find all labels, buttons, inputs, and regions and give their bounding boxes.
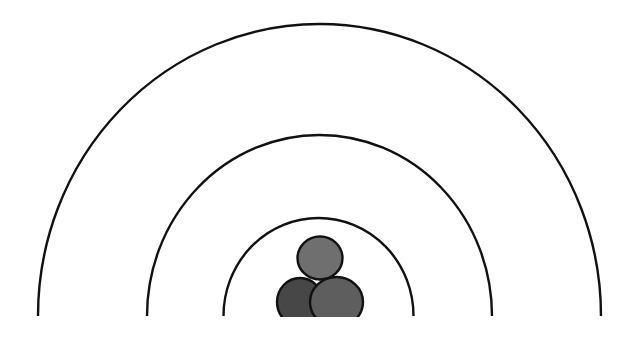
people-group-icon — [277, 237, 363, 328]
person-head-icon — [298, 237, 343, 280]
diagram-canvas — [0, 0, 639, 338]
signal-people-diagram — [0, 0, 639, 338]
person-right-body-icon — [310, 277, 363, 327]
